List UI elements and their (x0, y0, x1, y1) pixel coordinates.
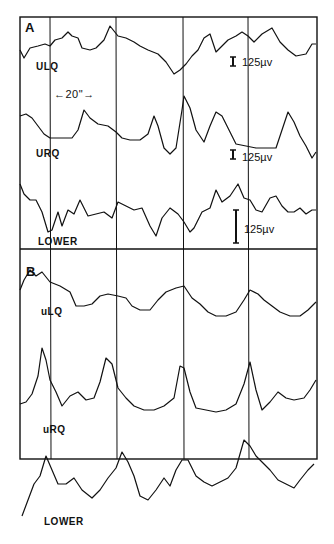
time-marker-line (248, 17, 249, 459)
trace-ulq (20, 270, 316, 316)
trace-urq (20, 348, 316, 412)
trace-urq (20, 96, 316, 158)
scale-label-a-ulq: 125µv (242, 56, 272, 68)
trace-lower (22, 440, 314, 516)
trace-label-a-ulq: ULQ (36, 61, 59, 72)
trace-label-b-urq: uRQ (43, 424, 66, 435)
trace-label-b-ulq: uLQ (41, 306, 63, 317)
panel-b-label: B (26, 264, 35, 279)
time-marker-label: ←20"→ (54, 88, 95, 100)
panel-a-label: A (25, 20, 34, 35)
scale-label-a-lower: 125µv (244, 223, 274, 235)
scale-bars (230, 57, 239, 243)
time-marker-line (116, 17, 117, 459)
trace-label-a-lower: LOWER (38, 236, 78, 247)
emg-trace-plot (0, 0, 334, 544)
vertical-time-markers (50, 17, 249, 459)
scale-label-a-urq: 125µv (242, 151, 272, 163)
trace-label-b-lower: LOWER (44, 516, 84, 527)
time-marker-line (183, 17, 184, 459)
trace-label-a-urq: URQ (36, 148, 60, 159)
